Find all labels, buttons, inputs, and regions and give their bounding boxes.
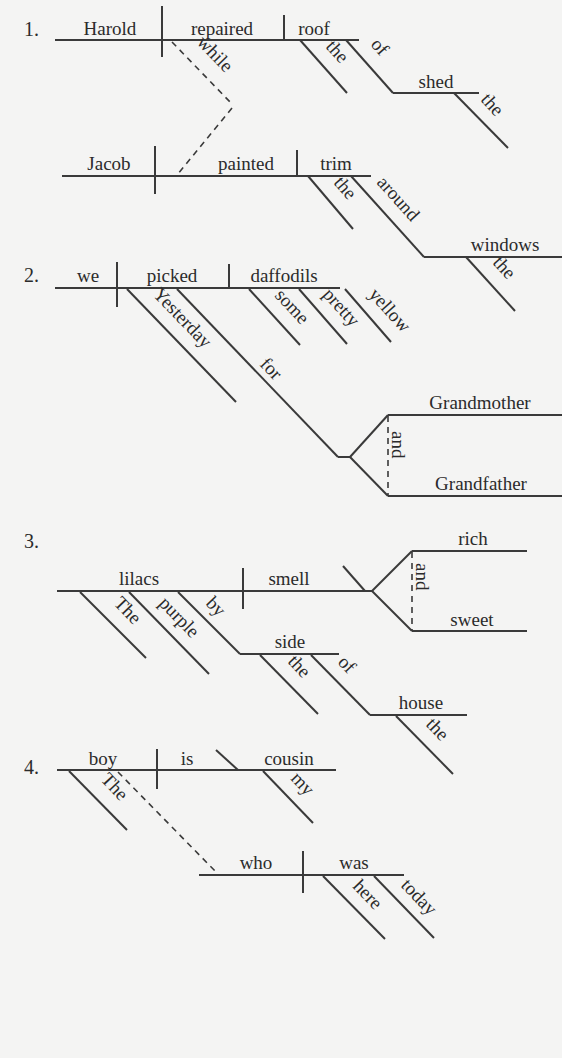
word-subject: boy — [89, 748, 118, 769]
word-prep-object: shed — [419, 71, 454, 92]
compound-branch-upper — [350, 415, 388, 457]
diagram-3: 3. lilacs smell and rich sweet The purpl… — [24, 528, 527, 774]
word-predicate-conj: and — [412, 563, 433, 591]
word-compound-2: Grandfather — [435, 473, 527, 494]
word-predicate-nom: cousin — [264, 748, 314, 769]
diagram-number: 1. — [24, 18, 39, 40]
word-predicate-adj-1: rich — [458, 528, 488, 549]
word-prep-object: side — [275, 631, 306, 652]
word-prep-object: house — [399, 692, 443, 713]
word-prep: around — [373, 172, 424, 226]
word-subject: Harold — [84, 18, 137, 39]
predicate-nom-divider — [216, 750, 238, 770]
sentence-diagrams: 1. Harold repaired roof the of shed the … — [0, 0, 562, 1058]
word-verb: smell — [268, 568, 309, 589]
word-modifier: my — [287, 767, 319, 799]
word-compound-1: Grandmother — [429, 392, 531, 413]
word-modifier: the — [284, 650, 315, 681]
word-modifier: the — [422, 713, 453, 744]
predicate-adj-divider — [343, 566, 365, 591]
word-verb: is — [181, 748, 194, 769]
word-verb: repaired — [191, 18, 254, 39]
compound-branch-lower — [372, 591, 412, 631]
word-modifier: today — [397, 874, 442, 919]
word-modifier: yellow — [365, 284, 415, 337]
word-prep: by — [202, 592, 231, 621]
word-compound-conj: and — [388, 431, 409, 459]
word-object: daffodils — [250, 265, 317, 286]
word-subject: lilacs — [119, 568, 159, 589]
relative-connector — [118, 772, 216, 872]
compound-branch-lower — [350, 457, 388, 496]
diagram-2: 2. we picked daffodils Yesterday for and… — [24, 262, 562, 496]
diagram-number: 3. — [24, 530, 39, 552]
word-subject: we — [77, 265, 99, 286]
word-sub-subject: Jacob — [87, 153, 130, 174]
word-object: roof — [298, 18, 330, 39]
word-predicate-adj-2: sweet — [450, 609, 494, 630]
word-verb: picked — [147, 265, 198, 286]
word-modifier: pretty — [319, 284, 365, 331]
word-sub-verb: painted — [218, 153, 274, 174]
diagram-number: 4. — [24, 756, 39, 778]
prep-line — [177, 289, 338, 457]
word-rel-subject: who — [240, 852, 273, 873]
compound-branch-upper — [372, 551, 412, 591]
word-modifier: The — [110, 592, 146, 628]
word-prep: for — [256, 353, 287, 384]
diagram-4: 4. boy is cousin The my who was here tod… — [24, 748, 442, 939]
modifier-line — [80, 592, 146, 658]
word-modifier: purple — [155, 592, 204, 642]
word-sub-object: trim — [320, 153, 352, 174]
word-verb-modifier: Yesterday — [149, 283, 217, 352]
word-prep: of — [334, 651, 361, 677]
word-modifier: The — [97, 768, 133, 804]
word-rel-verb: was — [339, 852, 369, 873]
word-prep: of — [367, 34, 394, 60]
word-modifier: the — [477, 89, 508, 120]
diagram-number: 2. — [24, 264, 39, 286]
